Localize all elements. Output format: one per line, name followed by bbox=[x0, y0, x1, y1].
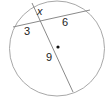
label-six: 6 bbox=[62, 16, 68, 28]
label-nine: 9 bbox=[46, 51, 52, 63]
label-three: 3 bbox=[24, 25, 30, 37]
label-x: x bbox=[36, 5, 43, 17]
chord-diagram: x 6 3 9 bbox=[0, 0, 110, 104]
center-dot bbox=[56, 45, 59, 48]
circle bbox=[10, 1, 105, 96]
